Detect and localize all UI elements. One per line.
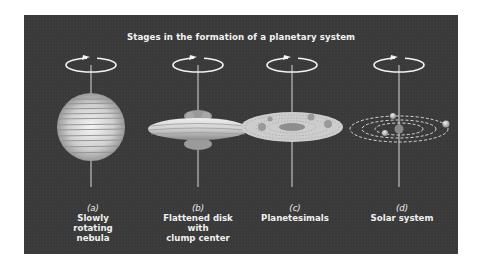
caption-line: nebula: [38, 233, 148, 243]
diagram-panel: Stages in the formation of a planetary s…: [24, 15, 458, 254]
stage-a-caption: (a) Slowly rotating nebula: [38, 203, 148, 243]
flattened-disk-icon: [143, 15, 253, 205]
stage-b-caption: (b) Flattened disk with clump center: [143, 203, 253, 243]
stage-a: (a) Slowly rotating nebula: [38, 15, 148, 254]
solar-system-icon: [347, 15, 457, 205]
caption-line: Solar system: [347, 213, 457, 223]
stage-c-letter: (c): [240, 203, 350, 213]
caption-line: Planetesimals: [240, 213, 350, 223]
caption-line: Slowly: [38, 213, 148, 223]
rotating-nebula-icon: [38, 15, 148, 205]
stage-d-caption: (d) Solar system: [347, 203, 457, 223]
caption-line: clump center: [143, 233, 253, 243]
caption-line: Flattened disk: [143, 213, 253, 223]
caption-line: with: [143, 223, 253, 233]
stage-d-letter: (d): [347, 203, 457, 213]
stage-c: (c) Planetesimals: [240, 15, 350, 254]
stage-a-letter: (a): [38, 203, 148, 213]
stage-b: (b) Flattened disk with clump center: [143, 15, 253, 254]
stage-b-letter: (b): [143, 203, 253, 213]
caption-line: rotating: [38, 223, 148, 233]
planetesimals-icon: [240, 15, 350, 205]
stage-d: (d) Solar system: [347, 15, 457, 254]
stage-c-caption: (c) Planetesimals: [240, 203, 350, 223]
